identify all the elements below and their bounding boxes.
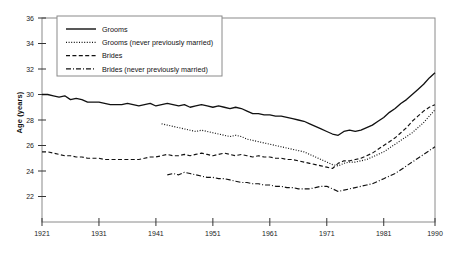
y-tick-label: 32	[26, 66, 34, 73]
y-tick-label: 22	[26, 193, 34, 200]
y-tick-label: 28	[26, 117, 34, 124]
legend-label-0: Grooms	[102, 25, 128, 34]
series-line-0	[42, 73, 435, 135]
y-tick-label: 36	[26, 15, 34, 22]
series-layer	[42, 73, 435, 192]
series-line-1	[162, 110, 435, 166]
x-tick-label: 1941	[148, 230, 164, 237]
legend-label-1: Grooms (never previously married)	[102, 38, 213, 47]
series-line-2	[42, 105, 435, 169]
x-tick-label: 1981	[376, 230, 392, 237]
x-tick-label: 1921	[34, 230, 50, 237]
line-chart: Age (years) 2224262830323436192119311941…	[0, 0, 452, 259]
series-line-3	[167, 147, 435, 192]
y-tick-label: 34	[26, 40, 34, 47]
y-tick-label: 24	[26, 168, 34, 175]
x-tick-label: 1990	[427, 230, 443, 237]
legend-box: GroomsGrooms (never previously married)B…	[57, 16, 222, 76]
x-tick-label: 1961	[262, 230, 278, 237]
x-tick-label: 1971	[319, 230, 335, 237]
y-tick-label: 26	[26, 142, 34, 149]
x-tick-label: 1951	[205, 230, 221, 237]
legend-label-2: Brides	[102, 51, 123, 60]
y-tick-label: 30	[26, 91, 34, 98]
chart-canvas: 2224262830323436192119311941195119611971…	[0, 0, 452, 259]
legend-label-3: Brides (never previously married)	[102, 65, 208, 74]
x-tick-label: 1931	[91, 230, 107, 237]
